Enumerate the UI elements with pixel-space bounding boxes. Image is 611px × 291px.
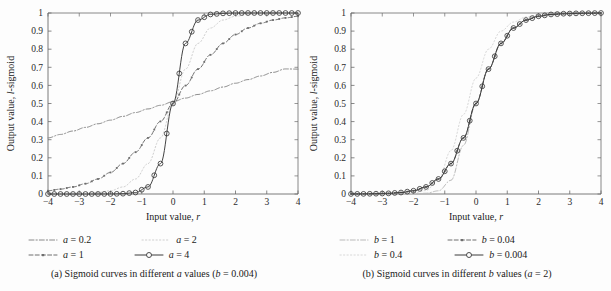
svg-text:−4: −4 — [43, 197, 53, 207]
svg-text:0.7: 0.7 — [334, 63, 346, 73]
svg-text:−4: −4 — [346, 197, 356, 207]
svg-text:Output value, l-sigmoid: Output value, l-sigmoid — [5, 56, 16, 151]
legend-b-row-1: b = 1 b = 0.04 — [303, 232, 611, 247]
svg-text:Input value, r: Input value, r — [146, 211, 200, 222]
legend-sample-line — [454, 249, 484, 261]
caption-b: (b) Sigmoid curves in different b values… — [303, 268, 611, 279]
legend-item-b-1[interactable]: b = 0.04 — [447, 232, 515, 247]
legend-item-b-3[interactable]: b = 0.004 — [454, 247, 527, 262]
svg-text:0: 0 — [38, 189, 43, 199]
legend-item-b-2[interactable]: b = 0.4 — [339, 247, 402, 262]
legend-item-b-0[interactable]: b = 1 — [339, 232, 395, 247]
legend-sample-line — [339, 249, 369, 261]
legend-label: a = 4 — [164, 249, 190, 260]
svg-text:2: 2 — [233, 197, 238, 207]
svg-text:1: 1 — [38, 8, 43, 18]
legend-sample-line — [134, 249, 164, 261]
svg-text:0: 0 — [171, 197, 176, 207]
plot-b-series — [349, 11, 604, 197]
svg-text:0.7: 0.7 — [31, 63, 43, 73]
plot-a-series — [46, 11, 301, 197]
legend-sample-line — [447, 234, 477, 246]
svg-text:0.1: 0.1 — [334, 171, 346, 181]
svg-text:0.4: 0.4 — [334, 117, 346, 127]
legend-label: a = 0.2 — [58, 234, 91, 245]
plot-b-axes: −4−3−2−10123400.10.20.30.40.50.60.70.80.… — [334, 8, 604, 207]
legend-b-row-2: b = 0.4 b = 0.004 — [303, 247, 611, 262]
svg-text:0.1: 0.1 — [31, 171, 43, 181]
svg-text:1: 1 — [341, 8, 346, 18]
legend-label: b = 0.4 — [369, 249, 402, 260]
plot-b-svg: −4−3−2−10123400.10.20.30.40.50.60.70.80.… — [303, 0, 611, 230]
legend-label: b = 0.04 — [477, 234, 515, 245]
legend-item-a-3[interactable]: a = 4 — [134, 247, 190, 262]
svg-text:0.9: 0.9 — [31, 26, 43, 36]
chart-panel-b: −4−3−2−10123400.10.20.30.40.50.60.70.80.… — [303, 0, 611, 291]
legend-sample-line — [28, 249, 58, 261]
legend-item-a-0[interactable]: a = 0.2 — [28, 232, 91, 247]
svg-text:0.4: 0.4 — [31, 117, 43, 127]
svg-text:−3: −3 — [74, 197, 84, 207]
legend-b: b = 1 b = 0.04 b = 0.4 b = 0.004 — [303, 232, 611, 266]
caption-a: (a) Sigmoid curves in different a values… — [0, 268, 308, 279]
svg-text:4: 4 — [296, 197, 301, 207]
svg-text:−3: −3 — [377, 197, 387, 207]
svg-text:0.5: 0.5 — [334, 99, 346, 109]
legend-label: b = 1 — [369, 234, 395, 245]
svg-text:0.2: 0.2 — [334, 153, 346, 163]
legend-sample-line — [28, 234, 58, 246]
svg-text:1: 1 — [202, 197, 207, 207]
svg-text:−2: −2 — [408, 197, 418, 207]
svg-text:3: 3 — [567, 197, 572, 207]
svg-text:0.3: 0.3 — [334, 135, 346, 145]
svg-text:−1: −1 — [137, 197, 147, 207]
plot-a-axes: −4−3−2−10123400.10.20.30.40.50.60.70.80.… — [31, 8, 301, 207]
svg-text:3: 3 — [264, 197, 269, 207]
svg-text:0.6: 0.6 — [334, 81, 346, 91]
legend-sample-line — [141, 234, 171, 246]
legend-label: a = 1 — [58, 249, 84, 260]
svg-text:−2: −2 — [105, 197, 115, 207]
svg-text:0.2: 0.2 — [31, 153, 43, 163]
svg-text:0.9: 0.9 — [334, 26, 346, 36]
svg-text:0.6: 0.6 — [31, 81, 43, 91]
svg-text:−1: −1 — [440, 197, 450, 207]
legend-label: a = 2 — [171, 234, 197, 245]
legend-sample-line — [339, 234, 369, 246]
figure-container: −4−3−2−10123400.10.20.30.40.50.60.70.80.… — [0, 0, 611, 291]
svg-text:0.8: 0.8 — [31, 44, 43, 54]
legend-a-row-2: a = 1 a = 4 — [0, 247, 308, 262]
legend-item-a-2[interactable]: a = 1 — [28, 247, 84, 262]
svg-text:4: 4 — [599, 197, 604, 207]
svg-text:0.3: 0.3 — [31, 135, 43, 145]
svg-text:0.8: 0.8 — [334, 44, 346, 54]
svg-text:0: 0 — [474, 197, 479, 207]
legend-label: b = 0.004 — [484, 249, 527, 260]
svg-text:0: 0 — [341, 189, 346, 199]
chart-panel-a: −4−3−2−10123400.10.20.30.40.50.60.70.80.… — [0, 0, 308, 291]
svg-text:Input value, r: Input value, r — [449, 211, 503, 222]
svg-text:Output value, l-sigmoid: Output value, l-sigmoid — [308, 56, 319, 151]
svg-text:2: 2 — [536, 197, 541, 207]
plot-a-svg: −4−3−2−10123400.10.20.30.40.50.60.70.80.… — [0, 0, 308, 230]
legend-item-a-1[interactable]: a = 2 — [141, 232, 197, 247]
legend-a-row-1: a = 0.2 a = 2 — [0, 232, 308, 247]
svg-text:0.5: 0.5 — [31, 99, 43, 109]
legend-a: a = 0.2 a = 2 a = 1 a = 4 — [0, 232, 308, 266]
svg-text:1: 1 — [505, 197, 510, 207]
